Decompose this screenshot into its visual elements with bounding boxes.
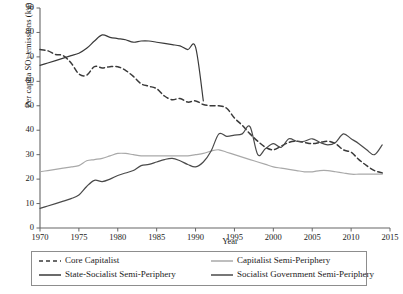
series-line-1 (40, 35, 203, 101)
legend-label: Core Capitalist (65, 256, 119, 265)
y-tick-label: 90 (12, 2, 34, 12)
y-tick-label: 0 (12, 222, 34, 232)
x-tick-label: 2005 (292, 232, 332, 242)
x-axis-label: Year (200, 236, 260, 246)
legend-swatch-solid (210, 256, 234, 265)
legend-label: State-Socialist Semi-Periphery (65, 270, 176, 279)
data-series (40, 35, 382, 209)
x-tick-label: 1980 (98, 232, 138, 242)
legend-swatch-dashed (38, 256, 62, 265)
legend-label: Capitalist Semi-Periphery (237, 256, 330, 265)
y-tick-label: 60 (12, 75, 34, 85)
series-line-0 (40, 50, 382, 173)
series-line-3 (40, 126, 382, 209)
legend-label: Socialist Government Semi-Periphery (237, 270, 374, 279)
x-tick-label: 2015 (370, 232, 403, 242)
x-tick-label: 1985 (137, 232, 177, 242)
y-axis-label: Per capita SO2 emissions (kg) (23, 0, 33, 140)
x-tick-label: 1970 (20, 232, 60, 242)
x-tick-label: 2010 (331, 232, 371, 242)
y-tick-label: 70 (12, 51, 34, 61)
legend-item[interactable]: Core Capitalist (38, 256, 119, 265)
y-tick-label: 40 (12, 124, 34, 134)
y-tick-label: 30 (12, 149, 34, 159)
y-tick-label: 50 (12, 100, 34, 110)
legend-item[interactable]: Capitalist Semi-Periphery (210, 256, 330, 265)
y-tick-label: 80 (12, 26, 34, 36)
legend-item[interactable]: State-Socialist Semi-Periphery (38, 270, 176, 279)
legend-swatch-solid (210, 270, 234, 279)
y-tick-label: 10 (12, 198, 34, 208)
x-tick-label: 1975 (59, 232, 99, 242)
y-tick-label: 20 (12, 173, 34, 183)
legend-item[interactable]: Socialist Government Semi-Periphery (210, 270, 374, 279)
axes (37, 8, 391, 232)
series-line-2 (40, 150, 382, 175)
legend-swatch-solid (38, 270, 62, 279)
chart-legend: Core CapitalistState-Socialist Semi-Peri… (31, 251, 367, 286)
